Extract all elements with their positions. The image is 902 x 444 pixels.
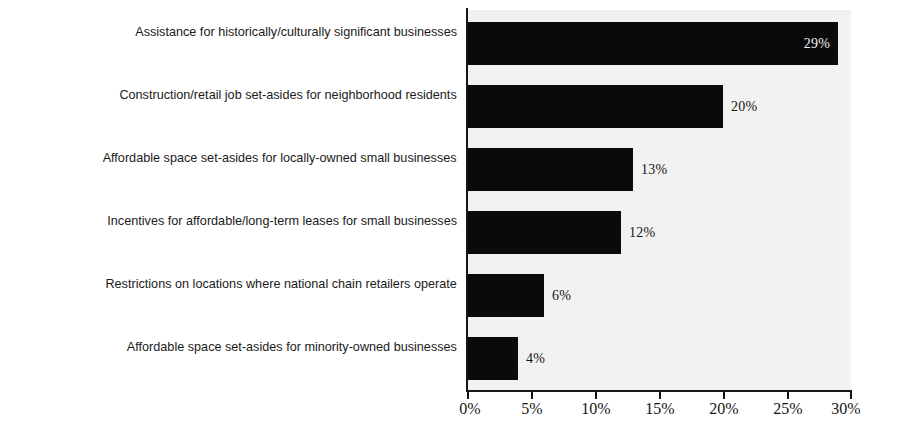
- bar-value-label: 13%: [641, 148, 667, 191]
- horizontal-bar-chart: Assistance for historically/culturally s…: [0, 0, 902, 444]
- x-tick-label: 30%: [831, 400, 860, 418]
- bar-value-label: 12%: [629, 211, 655, 254]
- category-label: Incentives for affordable/long-term leas…: [107, 199, 457, 242]
- x-tick-label: 20%: [709, 400, 738, 418]
- bar: [467, 211, 621, 254]
- x-tick-mark: [659, 392, 661, 399]
- plot-area: 29% 20% 13% 12% 6% 4%: [467, 10, 851, 390]
- bar: [467, 148, 633, 191]
- x-tick-label: 10%: [581, 400, 610, 418]
- x-tick-label: 15%: [645, 400, 674, 418]
- x-tick-label: 25%: [773, 400, 802, 418]
- y-axis-line: [466, 8, 468, 392]
- bar-value-label: 29%: [804, 22, 830, 65]
- category-axis-labels: Assistance for historically/culturally s…: [0, 10, 463, 390]
- x-tick-label: 0%: [459, 400, 480, 418]
- x-tick-mark: [850, 392, 852, 399]
- category-label: Assistance for historically/culturally s…: [135, 10, 457, 53]
- bar: 29%: [467, 22, 838, 65]
- x-tick-mark: [787, 392, 789, 399]
- bar: [467, 337, 518, 380]
- category-label: Construction/retail job set-asides for n…: [120, 73, 457, 116]
- x-tick-mark: [595, 392, 597, 399]
- bar: [467, 274, 544, 317]
- x-tick-mark: [467, 392, 469, 399]
- bar-value-label: 20%: [731, 85, 757, 128]
- x-tick-label: 5%: [521, 400, 542, 418]
- plot-background-texture: [467, 10, 851, 390]
- category-label: Affordable space set-asides for locally-…: [103, 136, 457, 179]
- bar-value-label: 6%: [552, 274, 571, 317]
- category-label: Restrictions on locations where national…: [106, 262, 457, 305]
- bar-value-label: 4%: [526, 337, 545, 380]
- x-axis: 0% 5% 10% 15% 20% 25% 30%: [467, 392, 851, 442]
- x-tick-mark: [723, 392, 725, 399]
- bar: [467, 85, 723, 128]
- category-label: Affordable space set-asides for minority…: [127, 325, 457, 368]
- x-tick-mark: [531, 392, 533, 399]
